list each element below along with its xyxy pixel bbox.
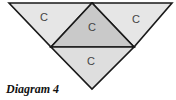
right-triangle-label: C <box>132 14 140 25</box>
left-triangle-label: C <box>40 12 48 23</box>
diagram-caption: Diagram 4 <box>6 82 59 97</box>
bottom-triangle-label: C <box>87 56 95 67</box>
center-triangle-label: C <box>88 22 96 33</box>
bottom-triangle <box>51 47 134 89</box>
